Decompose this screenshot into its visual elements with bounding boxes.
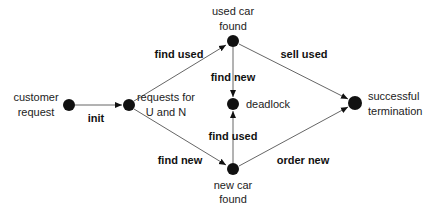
node-used-car-found [227, 35, 239, 47]
edge-label-find-used-upper: find used [155, 48, 204, 60]
label-new-car-2: found [219, 193, 247, 205]
edge-label-find-new-lower: find new [158, 154, 203, 166]
node-deadlock [227, 98, 239, 110]
edge-label-sell-used: sell used [280, 48, 327, 60]
label-successful-2: termination [368, 105, 422, 117]
label-new-car-1: new car [214, 179, 253, 191]
edge-label-find-used-middle: find used [209, 130, 258, 142]
node-new-car-found [227, 163, 239, 175]
label-used-car-2: found [219, 20, 247, 32]
edge-label-order-new: order new [277, 154, 330, 166]
label-used-car-1: used car [212, 5, 255, 17]
label-requests-2: U and N [146, 106, 186, 118]
node-requests-u-and-n [123, 99, 135, 111]
state-diagram: customer request requests for U and N us… [0, 0, 434, 214]
label-requests-1: requests for [137, 91, 195, 103]
label-customer-request-1: customer [13, 91, 59, 103]
node-successful-termination [348, 96, 362, 110]
label-successful-1: successful [368, 90, 419, 102]
node-customer-request [63, 99, 75, 111]
label-deadlock: deadlock [246, 98, 291, 110]
label-customer-request-2: request [18, 106, 55, 118]
edge-label-find-new-middle: find new [211, 71, 256, 83]
edge-label-init: init [88, 112, 105, 124]
